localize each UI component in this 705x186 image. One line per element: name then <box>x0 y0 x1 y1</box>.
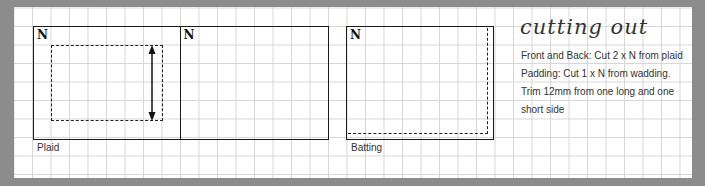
panel-n-label: N <box>37 28 48 42</box>
batting-panel: N <box>346 26 494 140</box>
panel-n-label: N <box>184 28 195 42</box>
instruction-line: Padding: Cut 1 x N from wadding. <box>521 68 671 79</box>
instructions-title: cutting out <box>520 15 648 39</box>
grid-paper: N N Plaid N Batting cutting out Front an… <box>14 7 692 178</box>
instruction-line: Trim 12mm from one long and one <box>521 86 674 97</box>
instruction-line: Front and Back: Cut 2 x N from plaid <box>521 50 683 61</box>
trim-line-long-side <box>487 28 488 134</box>
double-arrow-icon <box>146 45 158 121</box>
batting-caption: Batting <box>351 142 382 153</box>
panel-n-label: N <box>350 28 361 42</box>
plaid-panel-back: N <box>180 26 329 140</box>
trim-line-short-side <box>348 133 488 134</box>
instruction-line: short side <box>521 104 564 115</box>
plaid-caption: Plaid <box>37 142 59 153</box>
